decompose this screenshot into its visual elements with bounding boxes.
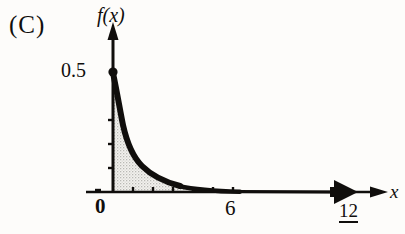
x-tick-label-6: 6 xyxy=(225,198,236,219)
x-axis-arrowhead xyxy=(370,187,388,198)
x-axis-label: x xyxy=(390,182,398,201)
y-tick-label-0.5: 0.5 xyxy=(61,60,86,80)
x-tick-label-0: 0 xyxy=(95,196,106,217)
shaded-area xyxy=(113,72,240,192)
figure-canvas: (C) f(x) 0.5 0 6 12 x xyxy=(0,0,405,234)
plot-svg xyxy=(0,0,405,234)
x-tick-label-12-wrapper: 12 xyxy=(339,201,358,223)
panel-label: (C) xyxy=(9,12,45,37)
y-axis-label: f(x) xyxy=(97,5,125,25)
x-tick-label-12: 12 xyxy=(339,201,358,223)
curve-end-arrow-shaft xyxy=(330,187,340,197)
